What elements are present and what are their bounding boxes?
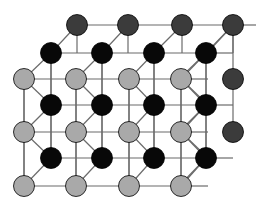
atom-mid-black <box>41 43 62 64</box>
atom-front-light <box>14 176 35 197</box>
atom-mid-black <box>196 148 217 169</box>
atom-back-dark <box>223 15 244 36</box>
atom-mid-black <box>92 148 113 169</box>
atom-mid-black <box>41 95 62 116</box>
atom-mid-black <box>144 43 165 64</box>
atom-front-light <box>171 122 192 143</box>
lattice-diagram-svg <box>0 0 256 209</box>
atom-mid-black <box>144 95 165 116</box>
atom-front-light <box>14 69 35 90</box>
atom-front-light <box>119 69 140 90</box>
atom-front-light <box>119 176 140 197</box>
atom-front-light <box>66 176 87 197</box>
crystal-lattice-figure: Crystal lattice structure diagram <box>0 0 256 209</box>
atom-front-light <box>171 69 192 90</box>
atom-back-dark <box>223 122 244 143</box>
atom-mid-black <box>41 148 62 169</box>
atom-back-dark <box>172 15 193 36</box>
atom-mid-black <box>92 95 113 116</box>
atom-mid-black <box>196 95 217 116</box>
atom-front-light <box>66 122 87 143</box>
atom-front-light <box>14 122 35 143</box>
atom-front-light <box>66 69 87 90</box>
atom-mid-black <box>92 43 113 64</box>
atom-mid-black <box>196 43 217 64</box>
atom-back-dark <box>118 15 139 36</box>
atom-back-dark <box>223 69 244 90</box>
atom-front-light <box>119 122 140 143</box>
atom-mid-black <box>144 148 165 169</box>
atom-back-dark <box>67 15 88 36</box>
atom-front-light <box>171 176 192 197</box>
